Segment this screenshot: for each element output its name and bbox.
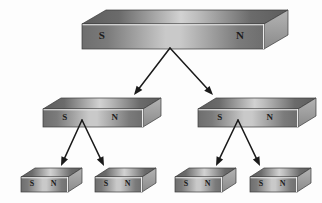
magnet-quarter-2-front-face — [95, 177, 142, 192]
magnet-quarter-3-body — [174, 167, 237, 193]
magnet-quarter-4-front-face — [250, 177, 297, 192]
magnet-quarter-2-body — [94, 167, 157, 193]
magnet-quarter-3-front-face — [175, 177, 222, 192]
magnet-quarter-1-body — [20, 167, 83, 193]
magnet-quarter-2: SN — [94, 167, 157, 193]
magnet-quarter-1-front-face — [21, 177, 68, 192]
magnet-quarter-3: SN — [174, 167, 237, 193]
level-3-quarters: SNSNSNSN — [0, 0, 322, 203]
magnet-quarter-4: SN — [249, 167, 312, 193]
magnet-division-diagram: SNSNSNSNSNSNSN — [0, 0, 322, 203]
magnet-quarter-1: SN — [20, 167, 83, 193]
magnet-quarter-4-body — [249, 167, 312, 193]
